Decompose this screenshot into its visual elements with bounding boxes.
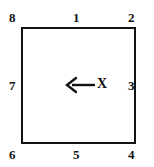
label-top-edge: 1 bbox=[73, 11, 80, 24]
label-bottom-left-corner: 6 bbox=[9, 148, 16, 161]
label-right-edge: 3 bbox=[128, 79, 135, 92]
arrow-label-x: X bbox=[97, 77, 107, 91]
label-bottom-edge: 5 bbox=[73, 148, 80, 161]
diagram-canvas: 8 1 2 7 3 6 5 4 X bbox=[0, 0, 154, 167]
label-left-edge: 7 bbox=[9, 79, 16, 92]
direction-annotation: X bbox=[64, 76, 110, 94]
label-top-right-corner: 2 bbox=[128, 11, 135, 24]
label-top-left-corner: 8 bbox=[9, 11, 16, 24]
label-bottom-right-corner: 4 bbox=[128, 148, 135, 161]
